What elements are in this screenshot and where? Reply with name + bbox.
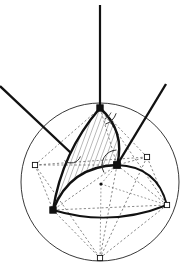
vertex-bottom (97, 255, 102, 260)
hatched-region-group (53, 108, 119, 210)
vertex-center (99, 182, 102, 185)
vertex-lower-left (50, 207, 56, 213)
ray-upper-right (117, 84, 166, 165)
ray-upper-left (0, 86, 71, 153)
octahedron-edge-lower-left-far-right (53, 205, 167, 210)
center-spokes-group (100, 165, 167, 258)
octahedron-edge-mid-right-bottom (100, 165, 117, 258)
spherical-triangle-hatch-fill (53, 108, 119, 210)
octahedron-edge-far-right-bottom (100, 205, 167, 258)
center-spoke-far-right (101, 184, 167, 205)
vertex-top (97, 105, 103, 111)
vertex-far-right (164, 202, 169, 207)
vertex-far-left (32, 162, 37, 167)
vertex-mid-right (114, 162, 121, 169)
figure-svg (0, 0, 186, 278)
vertex-upper-right (144, 154, 149, 159)
geometric-figure-canvas (0, 0, 186, 278)
center-spoke-bottom (100, 184, 101, 258)
